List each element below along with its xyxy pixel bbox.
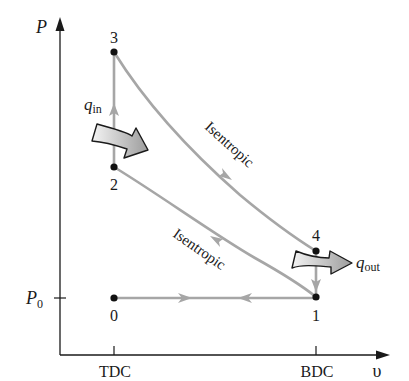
heat-in-arrow <box>92 124 148 158</box>
point-1 <box>312 293 319 300</box>
x-axis-arrow-icon <box>376 351 390 360</box>
point-1-label: 1 <box>312 307 320 324</box>
point-labels: 0 1 2 3 4 <box>110 29 320 324</box>
isentropic-compression-label: Isentropic <box>170 225 229 273</box>
p0-sub: 0 <box>37 297 43 311</box>
point-2 <box>110 163 117 170</box>
point-0 <box>110 294 117 301</box>
tdc-label: TDC <box>99 363 131 380</box>
y-axis-arrow-icon <box>56 17 65 31</box>
q-out-sub: out <box>365 260 381 274</box>
heat-in-icon <box>92 124 148 158</box>
p0-label: P0 <box>25 288 43 311</box>
point-4 <box>312 247 319 254</box>
point-3-label: 3 <box>110 29 118 46</box>
x-axis-label: υ <box>373 361 382 381</box>
heat-out-arrow <box>292 251 352 274</box>
q-out-label: qout <box>356 253 381 274</box>
point-4-label: 4 <box>312 227 320 244</box>
p0-main: P <box>25 288 37 308</box>
bdc-label: BDC <box>301 363 334 380</box>
point-2-label: 2 <box>110 176 118 193</box>
axes <box>54 17 390 360</box>
point-3 <box>110 48 117 55</box>
pv-diagram-canvas: 0 1 2 3 4 Isentropic Isentropic qin qout… <box>0 0 409 381</box>
isentropic-expansion-label: Isentropic <box>202 118 258 170</box>
y-axis-label: P <box>35 17 47 37</box>
heat-out-icon <box>292 251 352 274</box>
pv-diagram: 0 1 2 3 4 Isentropic Isentropic qin qout… <box>0 0 409 381</box>
q-in-label: qin <box>84 95 102 116</box>
point-0-label: 0 <box>110 307 118 324</box>
q-in-sub: in <box>93 102 102 116</box>
